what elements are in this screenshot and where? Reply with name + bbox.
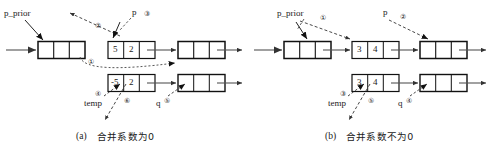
label-q-a: q: [156, 99, 161, 108]
cell-coef-node-temp-a: -5: [111, 78, 119, 87]
step-mark-6-a: ⑥: [124, 98, 130, 105]
label-p-b: p: [383, 8, 388, 17]
label-p-prior-b: p_prior: [277, 9, 304, 18]
step-mark-5-a: ⑤: [164, 98, 170, 105]
caption-text-b: 合并系数不为0: [346, 132, 413, 142]
label-p-prior-a: p_prior: [4, 9, 31, 18]
cell-coef-node-p-b: 3: [357, 45, 362, 54]
label-temp-a: temp: [84, 99, 102, 108]
node-prior-b: [284, 42, 350, 59]
cell-exp-node-p-a: 2: [129, 45, 134, 54]
cell-exp-node-temp-b: 4: [373, 78, 378, 87]
node-next-b: [420, 42, 486, 59]
step-mark-5-b: ⑤: [368, 98, 374, 105]
label-q-b: q: [398, 99, 403, 108]
p-prior-leader-b: [296, 22, 307, 39]
label-p-a: p: [132, 8, 137, 17]
step1-arrow-b: [300, 21, 350, 39]
cell-coef-node-temp-b: 3: [357, 78, 362, 87]
p-step-tick-a: [120, 18, 131, 30]
cell-coef-node-p-a: 5: [113, 45, 118, 54]
node-q-a: [178, 75, 242, 92]
linked-list-merge-figure: p_prior ② p ③ ① 5 2 -5 2 ④ temp ⑥ q ⑤ (a…: [0, 0, 495, 149]
step-mark-1-a: ①: [88, 59, 94, 66]
figure-canvas: [0, 0, 495, 149]
cell-exp-node-p-b: 4: [373, 45, 378, 54]
step-mark-3-b: ③: [340, 91, 346, 98]
node-p-a: [108, 42, 176, 59]
node-next-a: [178, 42, 242, 59]
step2-arrow-b: [389, 20, 428, 39]
step-mark-4-a: ④: [95, 91, 101, 98]
step-mark-4-b: ④: [406, 98, 412, 105]
step-mark-2-b: ②: [400, 14, 406, 21]
node-q-b: [420, 75, 486, 92]
step-mark-1-b: ①: [320, 15, 326, 22]
label-temp-b: temp: [328, 99, 346, 108]
cell-exp-node-temp-a: 2: [129, 78, 134, 87]
caption-index-b: (b): [325, 132, 336, 142]
node-prior-a: [38, 42, 85, 59]
caption-index-a: (a): [76, 132, 87, 142]
step-mark-3-a: ③: [144, 11, 150, 18]
p-prior-leader-a: [25, 20, 43, 40]
step-mark-2-a: ②: [95, 23, 101, 30]
caption-text-a: 合并系数为0: [97, 132, 154, 142]
